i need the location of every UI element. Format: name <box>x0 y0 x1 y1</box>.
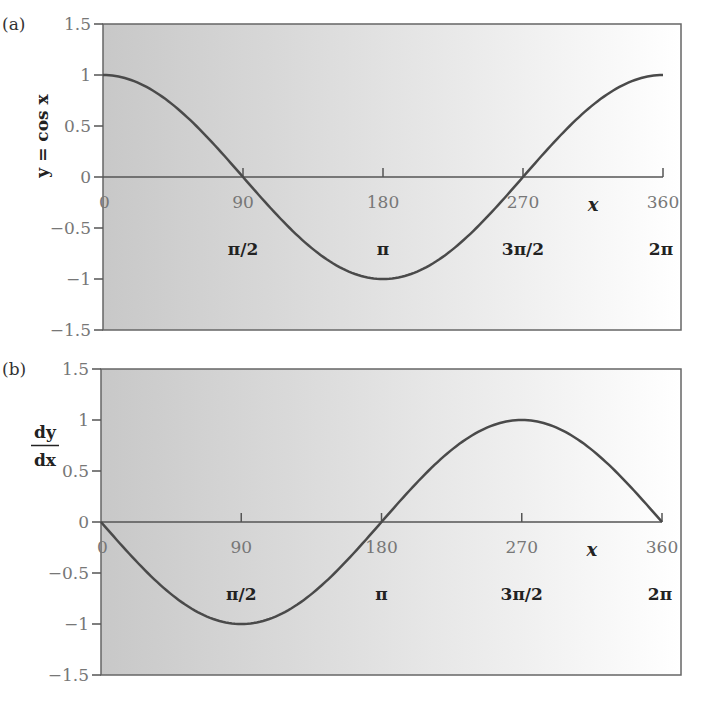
x-tick-label: 360 <box>647 192 679 212</box>
panel-label: (a) <box>2 14 25 34</box>
y-tick-label: −1 <box>64 614 89 634</box>
x-tick-label: 90 <box>230 537 252 557</box>
radian-label: 3π/2 <box>502 239 544 259</box>
chart-figure: 1.510.50−0.5−1−1.5090180270360xπ/2π3π/22… <box>0 0 705 712</box>
panel-label: (b) <box>2 359 26 379</box>
panel-b: 1.510.50−0.5−1−1.5090180270360xπ/2π3π/22… <box>2 359 681 685</box>
x-tick-label: 180 <box>367 192 399 212</box>
x-tick-label: 90 <box>232 192 254 212</box>
panel-a: 1.510.50−0.5−1−1.5090180270360xπ/2π3π/22… <box>2 14 681 340</box>
x-tick-label: 270 <box>507 192 539 212</box>
radian-label: 3π/2 <box>501 584 543 604</box>
y-tick-label: 0.5 <box>64 116 91 136</box>
radian-label: 2π <box>648 584 672 604</box>
y-tick-label: −1.5 <box>50 320 91 340</box>
y-tick-label: 1.5 <box>62 359 89 379</box>
x-tick-label: 180 <box>365 537 397 557</box>
y-tick-label: −1 <box>66 269 91 289</box>
y-tick-label: −0.5 <box>48 563 89 583</box>
y-tick-label: −1.5 <box>48 665 89 685</box>
radian-label: 2π <box>649 239 673 259</box>
y-tick-label: 0.5 <box>62 461 89 481</box>
radian-label: π/2 <box>226 584 256 604</box>
radian-label: π <box>375 584 387 604</box>
y-tick-label: 0 <box>78 512 89 532</box>
y-axis-title-numerator: dy <box>34 422 57 442</box>
y-tick-label: −0.5 <box>50 218 91 238</box>
radian-label: π/2 <box>228 239 258 259</box>
y-axis-title-denominator: dx <box>34 450 57 470</box>
x-tick-label: 0 <box>97 537 108 557</box>
radian-label: π <box>377 239 389 259</box>
y-tick-label: 1 <box>80 65 91 85</box>
x-axis-title: x <box>587 194 599 215</box>
x-tick-label: 270 <box>506 537 538 557</box>
x-tick-label: 360 <box>646 537 678 557</box>
x-axis-title: x <box>586 539 598 560</box>
y-tick-label: 1.5 <box>64 14 91 34</box>
y-tick-label: 1 <box>78 410 89 430</box>
y-axis-title: y = cos x <box>32 94 52 179</box>
x-tick-label: 0 <box>99 192 110 212</box>
y-tick-label: 0 <box>80 167 91 187</box>
